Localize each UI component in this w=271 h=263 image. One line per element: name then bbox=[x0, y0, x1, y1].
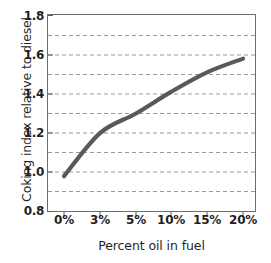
x-tick-label: 15% bbox=[193, 213, 221, 227]
x-tick-label: 0% bbox=[54, 213, 74, 227]
x-tick-label: 5% bbox=[126, 213, 146, 227]
y-tick-label: 1.4 bbox=[18, 87, 44, 101]
chart-container: Coking index relative to diesel 0.8 1.0 … bbox=[0, 0, 271, 263]
y-tick-label: 1.2 bbox=[18, 126, 44, 140]
y-tick-label: 1.8 bbox=[18, 9, 44, 23]
x-tick-label: 20% bbox=[229, 213, 257, 227]
y-tick-label: 1.6 bbox=[18, 48, 44, 62]
y-tick-label: 1.0 bbox=[18, 165, 44, 179]
x-axis-title: Percent oil in fuel bbox=[47, 238, 256, 253]
x-tick-label: 3% bbox=[90, 213, 110, 227]
x-axis-tick-labels: 0% 3% 5% 10% 15% 20% bbox=[0, 213, 271, 235]
x-tick-label: 10% bbox=[157, 213, 185, 227]
